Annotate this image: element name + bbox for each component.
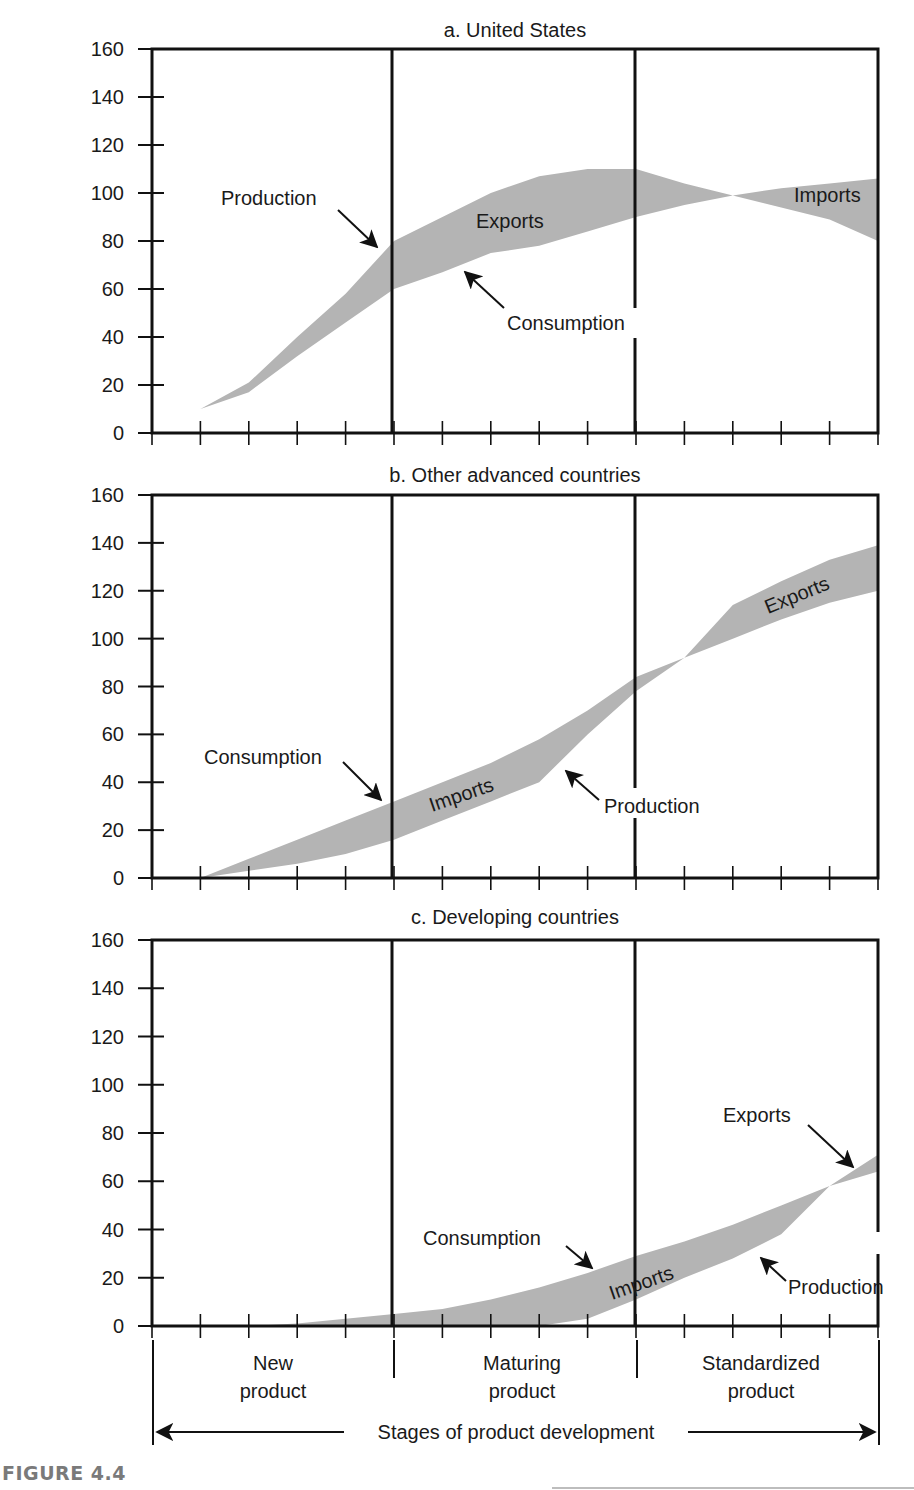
production-label: Production (221, 187, 317, 209)
consumption-label: Consumption (423, 1227, 541, 1249)
y-tick-label: 160 (91, 929, 124, 951)
panel-title: c. Developing countries (411, 906, 619, 928)
arrow-icon (761, 1258, 786, 1281)
y-tick-label: 40 (102, 1219, 124, 1241)
y-tick-label: 20 (102, 1267, 124, 1289)
product-cycle-figure: a. United States 020406080100120140160 P… (0, 0, 914, 1490)
exports-label: Exports (476, 210, 544, 232)
y-tick-label: 40 (102, 326, 124, 348)
y-tick-label: 60 (102, 278, 124, 300)
y-tick-label: 140 (91, 86, 124, 108)
y-tick-label: 80 (102, 1122, 124, 1144)
y-tick-label: 60 (102, 1170, 124, 1192)
panel-developing-countries: c. Developing countries 0204060801001201… (91, 906, 886, 1338)
y-tick-label: 160 (91, 484, 124, 506)
label-knockout (870, 1232, 886, 1254)
y-tick-label: 160 (91, 38, 124, 60)
y-tick-label: 0 (113, 1315, 124, 1337)
y-tick-label: 120 (91, 580, 124, 602)
y-tick-label: 120 (91, 1026, 124, 1048)
y-tick-label: 120 (91, 134, 124, 156)
arrow-icon (566, 1246, 592, 1268)
y-tick-label: 100 (91, 182, 124, 204)
stage-label-maturing: product (489, 1380, 556, 1402)
y-tick-label: 100 (91, 628, 124, 650)
y-tick-label: 100 (91, 1074, 124, 1096)
stage-axis: New product Maturing product Standardize… (153, 1340, 879, 1445)
panel-other-advanced-countries: b. Other advanced countries 020406080100… (91, 464, 878, 890)
arrow-icon (465, 272, 504, 308)
plot-frame (152, 495, 878, 878)
y-tick-label: 60 (102, 723, 124, 745)
panel-title: b. Other advanced countries (389, 464, 640, 486)
x-axis-title: Stages of product development (378, 1421, 655, 1443)
figure-caption: FIGURE 4.4 (2, 1462, 126, 1484)
arrow-icon (566, 771, 599, 800)
panel-united-states: a. United States 020406080100120140160 P… (91, 19, 878, 445)
y-tick-label: 20 (102, 819, 124, 841)
arrow-icon (338, 210, 377, 247)
y-tick-label: 80 (102, 230, 124, 252)
y-tick-label: 140 (91, 977, 124, 999)
imports-label: Imports (794, 184, 861, 206)
production-label: Production (604, 795, 700, 817)
stage-label-new: New (253, 1352, 294, 1374)
stage-label-standardized: product (728, 1380, 795, 1402)
arrow-icon (808, 1125, 853, 1167)
y-tick-label: 40 (102, 771, 124, 793)
consumption-label: Consumption (204, 746, 322, 768)
production-label: Production (788, 1276, 884, 1298)
stage-label-new: product (240, 1380, 307, 1402)
stage-label-standardized: Standardized (702, 1352, 820, 1374)
caption-divider (552, 1487, 914, 1489)
panel-title: a. United States (444, 19, 586, 41)
arrow-icon (343, 762, 381, 800)
y-tick-label: 80 (102, 676, 124, 698)
stage-label-maturing: Maturing (483, 1352, 561, 1374)
y-tick-label: 0 (113, 867, 124, 889)
plot-frame (152, 940, 878, 1326)
y-tick-label: 0 (113, 422, 124, 444)
exports-label: Exports (723, 1104, 791, 1126)
consumption-label: Consumption (507, 312, 625, 334)
y-tick-label: 140 (91, 532, 124, 554)
y-tick-label: 20 (102, 374, 124, 396)
